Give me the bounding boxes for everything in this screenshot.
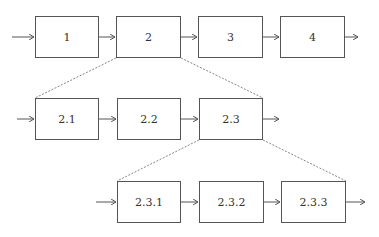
process-box-3: 3: [198, 16, 263, 58]
process-box-2-3: 2.3: [199, 98, 263, 140]
process-box-label: 3: [227, 31, 234, 44]
process-box-label: 2.3.3: [300, 196, 328, 209]
process-box-label: 2: [145, 31, 152, 44]
process-box-label: 2.2: [140, 113, 158, 126]
process-box-label: 2.3: [222, 113, 240, 126]
process-box-2-3-1: 2.3.1: [117, 181, 181, 223]
process-box-1: 1: [35, 16, 99, 58]
process-box-2-2: 2.2: [117, 98, 181, 140]
process-box-2-3-3: 2.3.3: [281, 181, 346, 223]
process-box-2-1: 2.1: [35, 98, 99, 140]
process-box-2-3-2: 2.3.2: [199, 181, 264, 223]
process-box-label: 2.3.2: [218, 196, 246, 209]
process-box-label: 2.1: [58, 113, 76, 126]
process-box-label: 4: [309, 31, 316, 44]
process-box-label: 2.3.1: [135, 196, 163, 209]
process-box-2: 2: [116, 16, 181, 58]
process-box-label: 1: [64, 31, 71, 44]
process-box-4: 4: [280, 16, 345, 58]
